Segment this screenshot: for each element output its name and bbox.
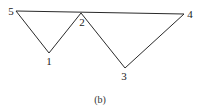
vertex-labels-group: 12345 xyxy=(8,5,193,82)
graph-diagram: 12345 (b) xyxy=(0,0,200,107)
edges-group xyxy=(16,11,184,68)
vertex-label-1: 1 xyxy=(46,55,52,67)
vertex-label-3: 3 xyxy=(121,70,127,82)
edge-5-4 xyxy=(16,11,184,14)
edge-5-1 xyxy=(16,11,49,53)
edge-1-2 xyxy=(49,13,81,53)
vertex-label-2: 2 xyxy=(79,16,85,28)
edge-2-3 xyxy=(81,13,125,68)
diagram-canvas: 12345 (b) xyxy=(0,0,200,107)
vertex-label-4: 4 xyxy=(187,8,193,20)
vertex-label-5: 5 xyxy=(8,5,14,17)
edge-3-4 xyxy=(125,14,184,68)
figure-caption: (b) xyxy=(94,94,106,106)
